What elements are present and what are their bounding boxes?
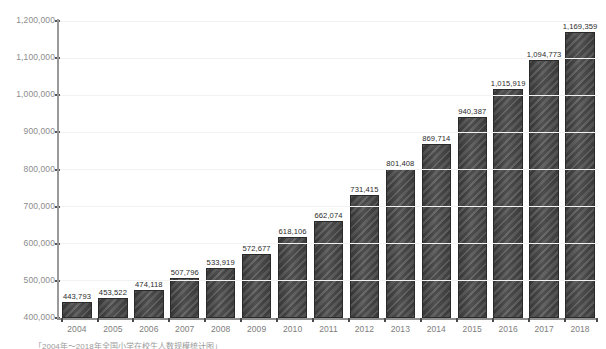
y-axis-label: 500,000 xyxy=(3,276,55,285)
y-axis-label: 1,000,000 xyxy=(3,90,55,99)
bar[interactable] xyxy=(98,298,127,318)
bar[interactable] xyxy=(134,290,163,318)
x-axis-tick xyxy=(204,318,206,322)
bar[interactable] xyxy=(278,237,307,318)
x-axis-tick xyxy=(492,318,494,322)
gridline xyxy=(59,169,598,170)
bar[interactable] xyxy=(170,278,199,318)
gridline xyxy=(59,280,598,281)
bar[interactable] xyxy=(206,268,235,318)
x-axis-tick xyxy=(312,318,314,322)
x-axis-tick xyxy=(420,318,422,322)
bar[interactable] xyxy=(242,254,271,318)
bar[interactable] xyxy=(565,32,594,318)
x-axis-tick xyxy=(596,318,598,322)
gridline xyxy=(59,243,598,244)
gridline xyxy=(59,206,598,207)
y-axis-label: 400,000 xyxy=(3,313,55,322)
bar[interactable] xyxy=(493,89,522,318)
x-axis-tick xyxy=(564,318,566,322)
x-axis-tick xyxy=(528,318,530,322)
y-axis-label: 1,100,000 xyxy=(3,53,55,62)
y-axis-label: 900,000 xyxy=(3,127,55,136)
x-axis-tick xyxy=(456,318,458,322)
y-axis-label: 1,200,000 xyxy=(3,16,55,25)
bar[interactable] xyxy=(350,195,379,318)
gridline xyxy=(59,132,598,133)
x-axis-tick xyxy=(348,318,350,322)
x-axis-line xyxy=(57,318,598,320)
chart-caption: 「2004年～2018年全国小学在校生人数规模统计图」 xyxy=(34,340,222,349)
x-axis-tick xyxy=(61,318,63,322)
gridline xyxy=(59,95,598,96)
gridline xyxy=(59,21,598,22)
bar[interactable] xyxy=(314,221,343,318)
gridline xyxy=(59,58,598,59)
x-axis-tick xyxy=(132,318,134,322)
y-axis-label: 600,000 xyxy=(3,239,55,248)
x-axis-label: 2018 xyxy=(555,324,605,334)
y-axis-label: 800,000 xyxy=(3,165,55,174)
y-axis-line xyxy=(57,19,59,319)
plot-area: 443,793453,522474,118507,796533,919572,6… xyxy=(0,0,606,349)
bar-chart: 443,793453,522474,118507,796533,919572,6… xyxy=(0,0,606,349)
bar[interactable] xyxy=(529,60,558,318)
bar[interactable] xyxy=(62,302,91,318)
bar-value-label: 1,169,359 xyxy=(550,22,606,31)
bar[interactable] xyxy=(458,117,487,318)
x-axis-tick xyxy=(384,318,386,322)
x-axis-tick xyxy=(168,318,170,322)
x-axis-tick xyxy=(276,318,278,322)
x-axis-tick xyxy=(97,318,99,322)
x-axis-tick xyxy=(240,318,242,322)
y-axis-label: 700,000 xyxy=(3,202,55,211)
